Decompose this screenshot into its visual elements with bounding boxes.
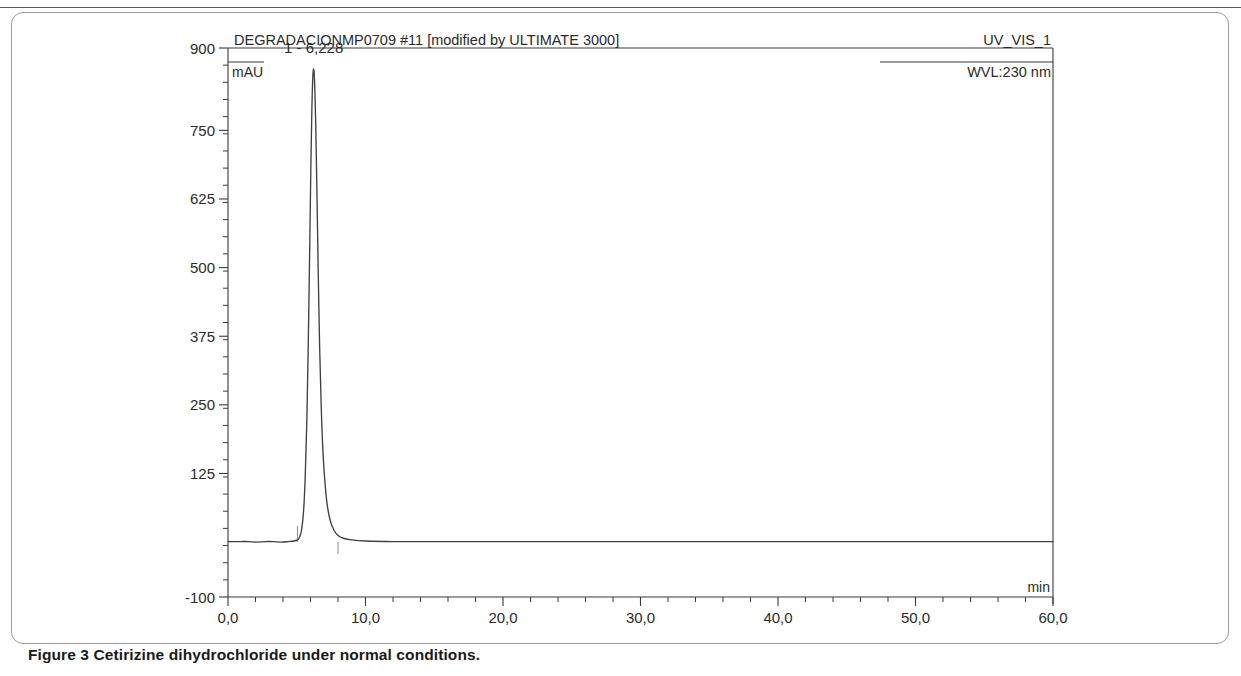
wavelength-label: WVL:230 nm: [967, 64, 1051, 80]
integration-marks: [297, 526, 338, 554]
figure-caption-label: Figure 3: [28, 646, 89, 663]
y-tick-label: 900: [190, 40, 215, 57]
x-tick-label: 50,0: [901, 609, 930, 626]
y-tick-label: 750: [190, 122, 215, 139]
y-tick-label: 625: [190, 190, 215, 207]
x-tick-label: 60,0: [1038, 609, 1067, 626]
x-tick-label: 40,0: [763, 609, 792, 626]
chromatogram-chart: DEGRADACIONMP0709 #11 [modified by ULTIM…: [0, 0, 1241, 676]
figure-caption: Figure 3 Cetirizine dihydrochloride unde…: [28, 646, 1208, 664]
y-tick-label: 375: [190, 328, 215, 345]
y-axis-tick-labels: -100125250375500625750900: [185, 40, 215, 606]
x-axis-ticks: [228, 597, 1053, 606]
y-tick-label: 500: [190, 259, 215, 276]
figure-caption-text: Cetirizine dihydrochloride under normal …: [94, 646, 481, 663]
y-tick-label: 250: [190, 396, 215, 413]
chromatogram-trace: [228, 69, 1053, 542]
x-axis-tick-labels: 0,010,020,030,040,050,060,0: [218, 609, 1068, 626]
x-tick-label: 10,0: [351, 609, 380, 626]
peak-label: 1 - 6,228: [284, 39, 343, 56]
detector-label: UV_VIS_1: [983, 32, 1051, 48]
chromatogram-svg: DEGRADACIONMP0709 #11 [modified by ULTIM…: [0, 0, 1241, 676]
y-axis-minor-ticks: [223, 65, 228, 580]
x-tick-label: 30,0: [626, 609, 655, 626]
y-tick-label: -100: [185, 589, 215, 606]
y-tick-label: 125: [190, 465, 215, 482]
x-axis-unit-label: min: [1027, 579, 1050, 595]
x-tick-label: 20,0: [488, 609, 517, 626]
y-axis-unit-label: mAU: [232, 64, 263, 80]
peak-annotations: 1 - 6,228: [284, 39, 343, 56]
x-tick-label: 0,0: [218, 609, 239, 626]
